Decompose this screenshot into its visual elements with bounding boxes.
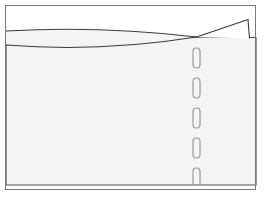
- main-body-panel: [6, 37, 256, 185]
- corner-flag-triangle: [197, 20, 250, 39]
- technical-figure: Sectional line drawing with tapered lens…: [0, 0, 274, 205]
- drawing-canvas: Sectional line drawing with tapered lens…: [0, 0, 274, 205]
